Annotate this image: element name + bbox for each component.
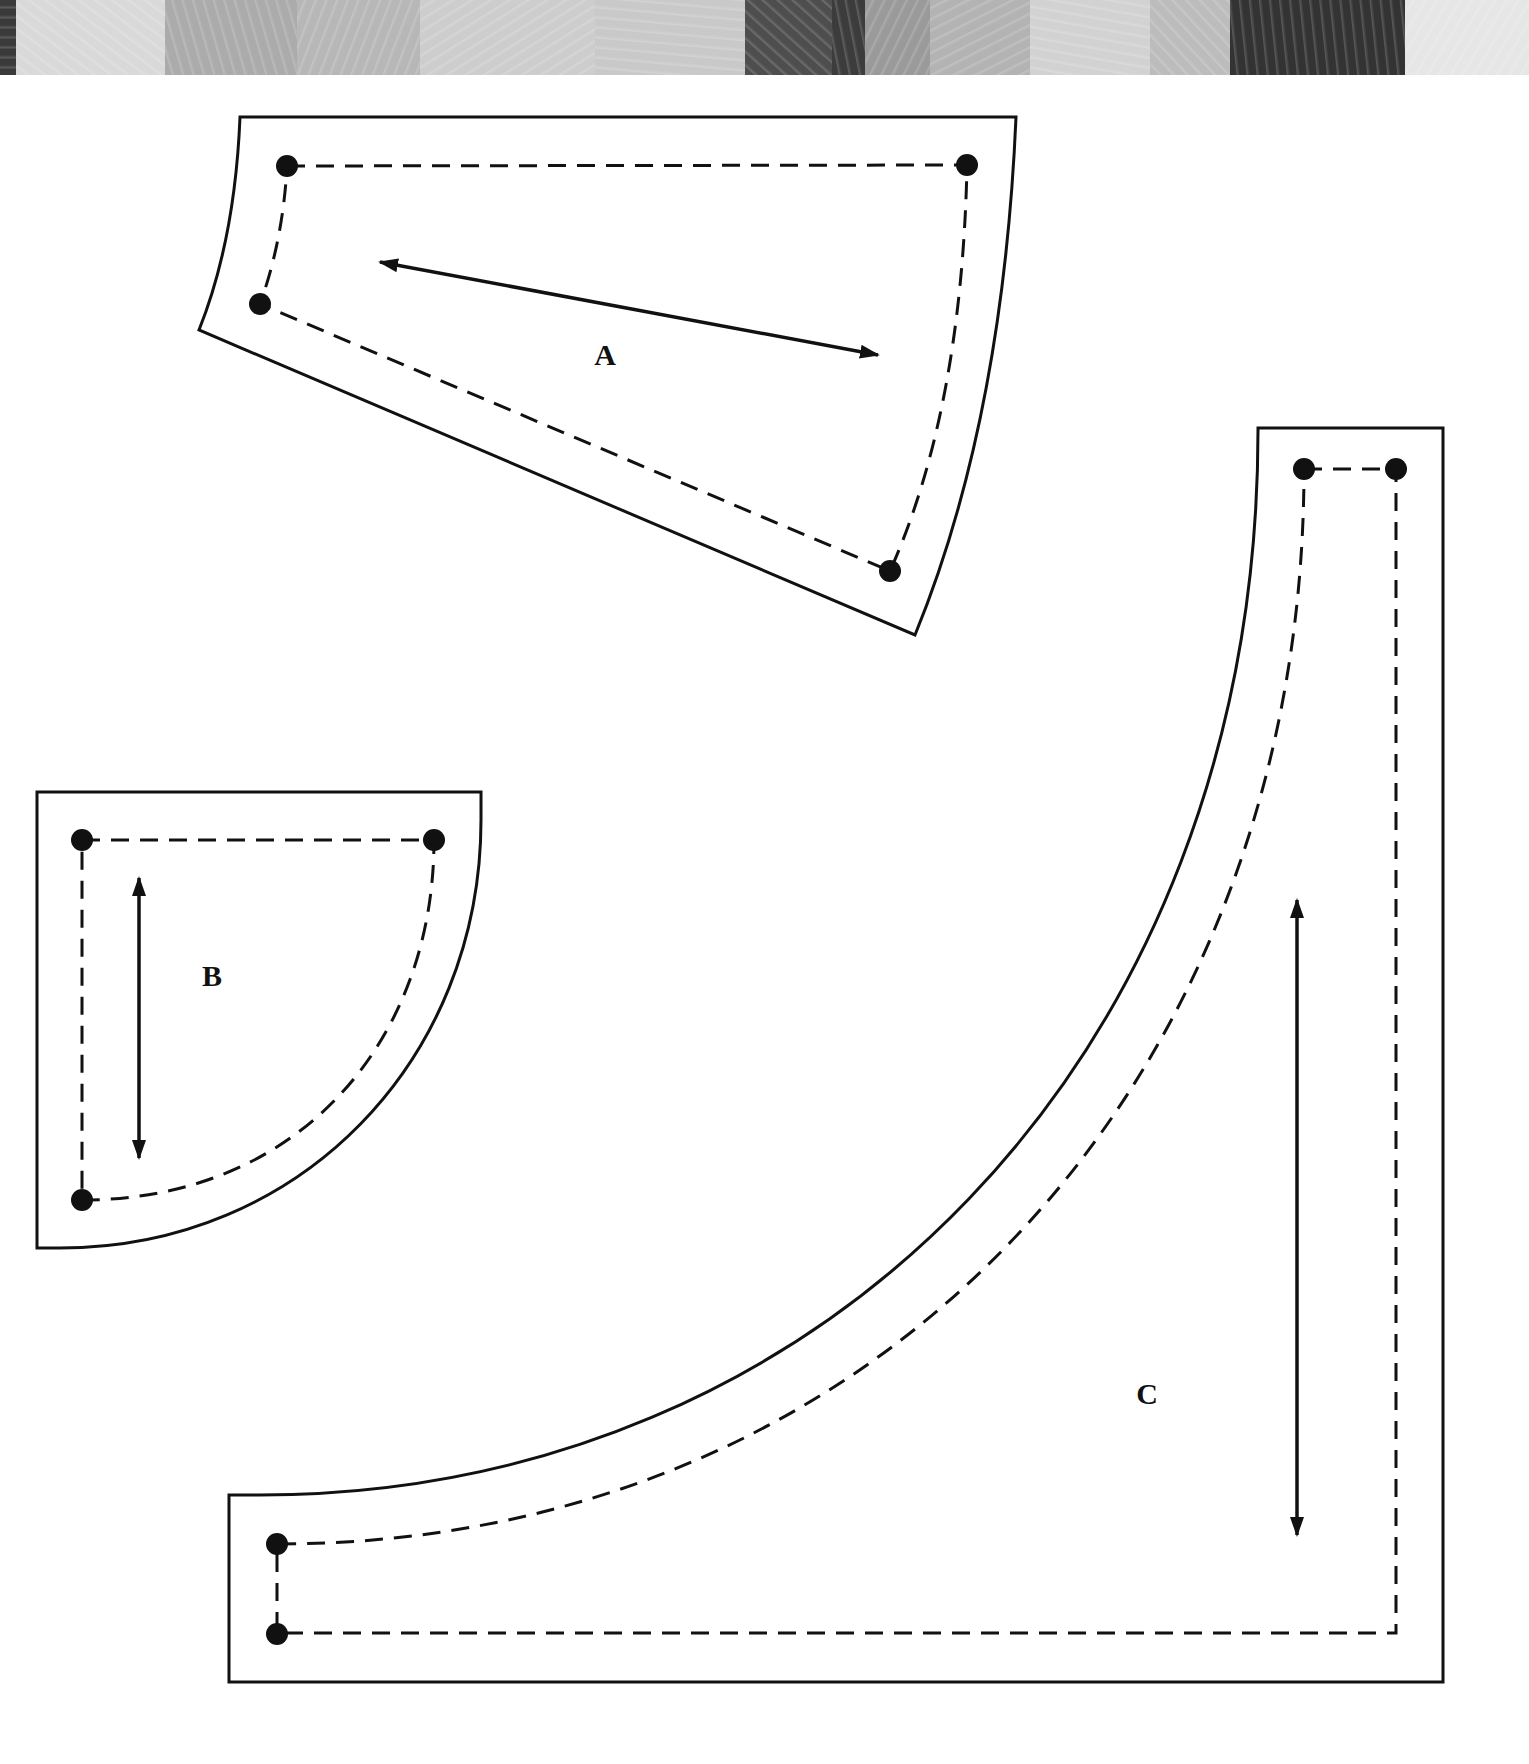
seam-dot <box>1385 458 1407 480</box>
seam-dot <box>956 154 978 176</box>
piece-b-cutting-line <box>37 792 481 1248</box>
seam-dot <box>71 1189 93 1211</box>
template-piece-b: B <box>37 792 481 1248</box>
piece-b-seam-line <box>82 840 434 1200</box>
piece-b-label: B <box>202 959 222 992</box>
piece-c-label: C <box>1136 1377 1158 1410</box>
seam-dot <box>266 1533 288 1555</box>
piece-a-label: A <box>594 338 616 371</box>
template-piece-c: C <box>229 428 1443 1682</box>
seam-dot <box>879 560 901 582</box>
seam-dot <box>71 829 93 851</box>
piece-a-grain-arrow-icon <box>380 262 878 355</box>
piece-c-cutting-line <box>229 428 1443 1682</box>
seam-dot <box>249 293 271 315</box>
seam-dot <box>276 155 298 177</box>
seam-dot <box>266 1623 288 1645</box>
piece-a-cutting-line <box>199 117 1016 635</box>
piece-b-seam-dots <box>71 829 445 1211</box>
seam-dot <box>1293 458 1315 480</box>
template-piece-a: A <box>199 117 1016 635</box>
piece-c-seam-line <box>277 469 1396 1633</box>
seam-dot <box>423 829 445 851</box>
pattern-template-diagram: A B C <box>0 0 1529 1764</box>
piece-c-seam-dots <box>266 458 1407 1645</box>
